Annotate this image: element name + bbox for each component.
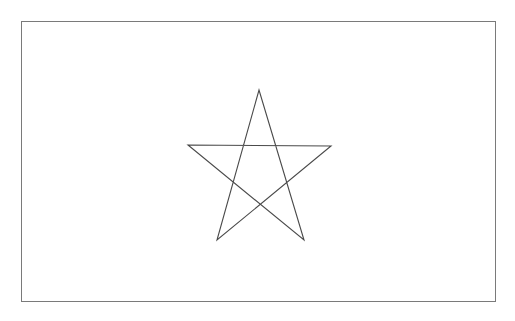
drawing-canvas <box>0 0 515 321</box>
drawing-surface <box>0 0 515 321</box>
canvas-background <box>0 0 515 321</box>
